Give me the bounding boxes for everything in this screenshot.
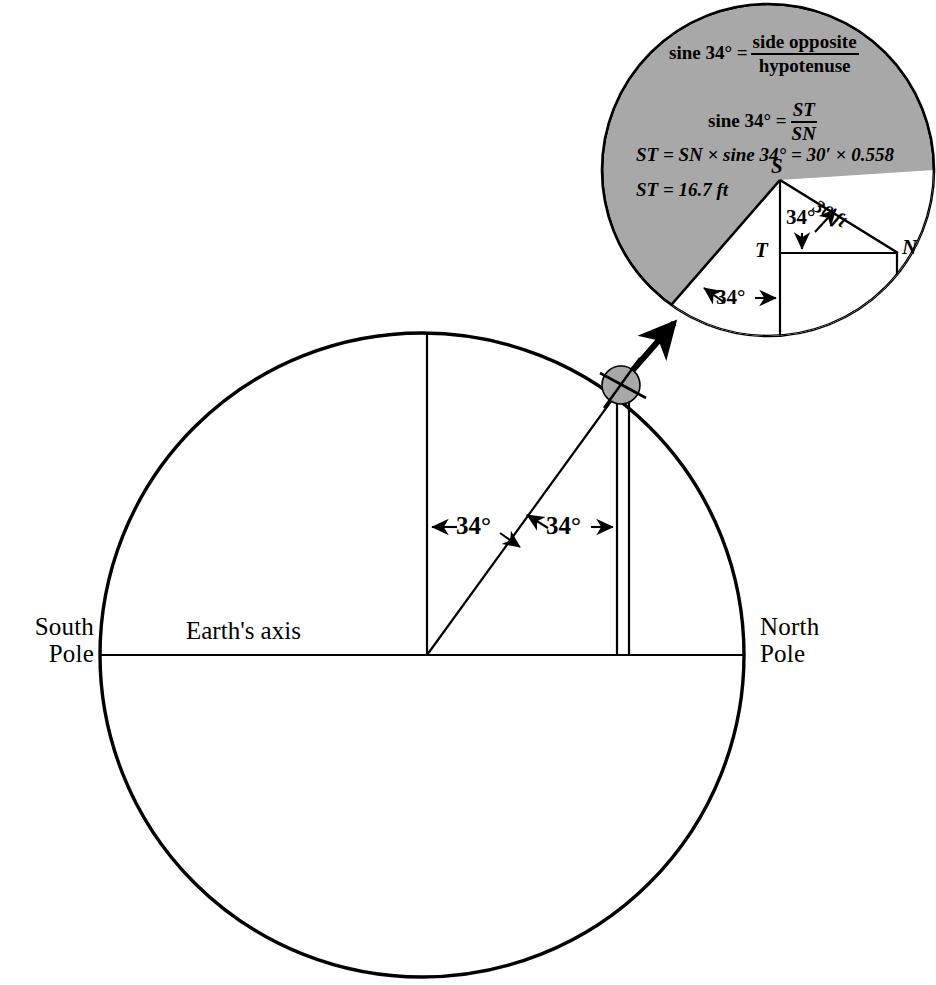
figure-root: South Pole North Pole Earth's axis 34° 3… (0, 0, 936, 985)
point-label-n: N (902, 236, 917, 259)
formula-line-4: ST = 16.7 ft (636, 180, 728, 201)
earth-angle-left-label: 34° (456, 512, 491, 539)
formula-2-denominator: SN (790, 123, 818, 144)
formula-2-fraction: ST SN (790, 100, 818, 144)
formula-2-lhs: sine 34° = (708, 111, 787, 132)
point-label-t: T (755, 239, 768, 262)
formula-1-fraction: side opposite hypotenuse (751, 32, 859, 76)
earth-angle-left-arrow-to-radius (500, 533, 520, 547)
formula-line-1: sine 34° = side opposite hypotenuse (669, 32, 859, 76)
formula-2-numerator: ST (791, 100, 817, 123)
magnifier-angle-upper-label: 34° (786, 206, 815, 229)
north-pole-label: North Pole (760, 613, 900, 667)
formula-line-2: sine 34° = ST SN (708, 100, 818, 144)
earth-angle-right-arrow-to-radius (527, 515, 548, 528)
magnifier-angle-lower-label: 34° (716, 286, 745, 309)
south-pole-label: South Pole (0, 613, 94, 667)
formula-line-3: ST = SN × sine 34° = 30′ × 0.558 (636, 145, 894, 166)
formula-1-lhs: sine 34° = (669, 43, 748, 64)
formula-4-text: ST = 16.7 ft (636, 180, 728, 201)
earths-axis-label: Earth's axis (186, 617, 301, 644)
formula-3-text: ST = SN × sine 34° = 30′ × 0.558 (636, 145, 894, 166)
earth-angle-right-label: 34° (546, 512, 581, 539)
formula-1-numerator: side opposite (751, 32, 859, 55)
earth-group (100, 333, 745, 977)
formula-1-denominator: hypotenuse (757, 55, 853, 76)
point-label-s: S (771, 155, 783, 178)
